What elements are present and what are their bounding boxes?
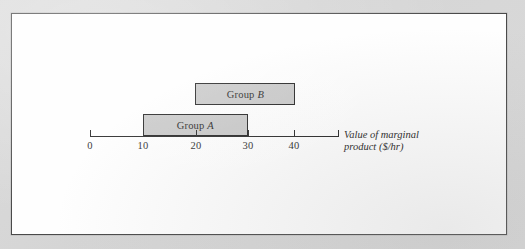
x-axis-caption-line-2: product ($/hr) (344, 141, 419, 153)
x-axis-caption-line-1: Value of marginal (344, 129, 419, 141)
x-axis-tick-30 (248, 130, 249, 137)
x-axis-tick-label-30: 30 (235, 140, 261, 151)
x-axis-tick-label-10: 10 (130, 140, 156, 151)
x-axis-tick-20 (196, 130, 197, 137)
scan-page-background: Group B Group A 0 10 20 30 40 Value o (0, 0, 525, 249)
x-axis-tick-label-20: 20 (183, 140, 209, 151)
x-axis-end-cap (338, 130, 339, 137)
x-axis-tick-label-40: 40 (281, 140, 307, 151)
x-axis-tick-label-0: 0 (77, 140, 103, 151)
x-axis-line (90, 136, 339, 137)
range-box-group-a-label: Group A (177, 120, 214, 131)
x-axis-caption: Value of marginal product ($/hr) (344, 129, 419, 152)
range-box-group-b-label: Group B (227, 89, 264, 100)
x-axis-tick-40 (294, 130, 295, 137)
figure-frame: Group B Group A 0 10 20 30 40 Value o (11, 13, 507, 235)
x-axis-tick-0 (90, 130, 91, 137)
plot-area: Group B Group A 0 10 20 30 40 Value o (12, 14, 508, 236)
x-axis-tick-10 (143, 130, 144, 137)
range-box-group-b: Group B (195, 83, 295, 105)
